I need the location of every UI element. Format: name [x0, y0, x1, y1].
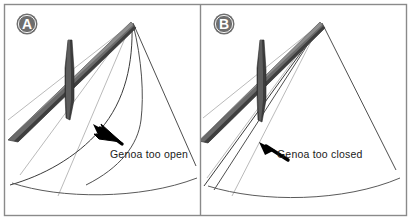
- panel-a-callout-label: Genoa too open: [110, 148, 188, 160]
- panel-b-callout-label: Genoa too closed: [277, 148, 363, 160]
- panel-b-letter: B: [219, 16, 229, 32]
- figure-root: A Genoa too open: [0, 0, 411, 220]
- panel-a-badge: A: [17, 14, 38, 35]
- genoa-trim-diagram: A Genoa too open: [0, 0, 411, 220]
- panel-a-letter: A: [22, 16, 32, 32]
- panel-b-badge: B: [214, 14, 235, 35]
